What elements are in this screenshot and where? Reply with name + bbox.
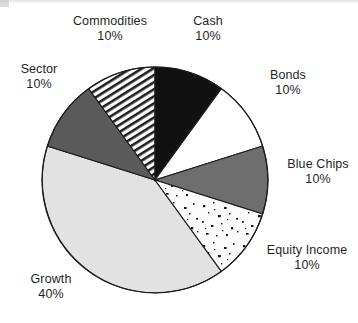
pie-chart-figure: Commodities 10% Cash 10% Sector 10% Bond… [0, 0, 358, 323]
pie-label-growth: Growth 40% [20, 272, 82, 302]
pie-label-equity-income-name: Equity Income [258, 243, 356, 258]
pie-label-cash: Cash 10% [178, 14, 238, 44]
pie-label-sector-percent: 10% [8, 77, 70, 92]
pie-label-equity-income: Equity Income 10% [258, 243, 356, 273]
pie-label-blue-chips-name: Blue Chips [282, 157, 354, 172]
pie-label-sector-name: Sector [8, 62, 70, 77]
pie-label-growth-name: Growth [20, 272, 82, 287]
pie-label-commodities-percent: 10% [57, 29, 163, 44]
pie-label-cash-name: Cash [178, 14, 238, 29]
pie-label-growth-percent: 40% [20, 287, 82, 302]
pie-label-bonds: Bonds 10% [260, 68, 316, 98]
pie-label-bonds-percent: 10% [260, 83, 316, 98]
pie-label-bonds-name: Bonds [260, 68, 316, 83]
pie-label-blue-chips: Blue Chips 10% [282, 157, 354, 187]
pie-label-commodities-name: Commodities [57, 14, 163, 29]
pie-label-blue-chips-percent: 10% [282, 172, 354, 187]
pie-label-equity-income-percent: 10% [258, 258, 356, 273]
pie-label-commodities: Commodities 10% [57, 14, 163, 44]
pie-label-cash-percent: 10% [178, 29, 238, 44]
pie-label-sector: Sector 10% [8, 62, 70, 92]
